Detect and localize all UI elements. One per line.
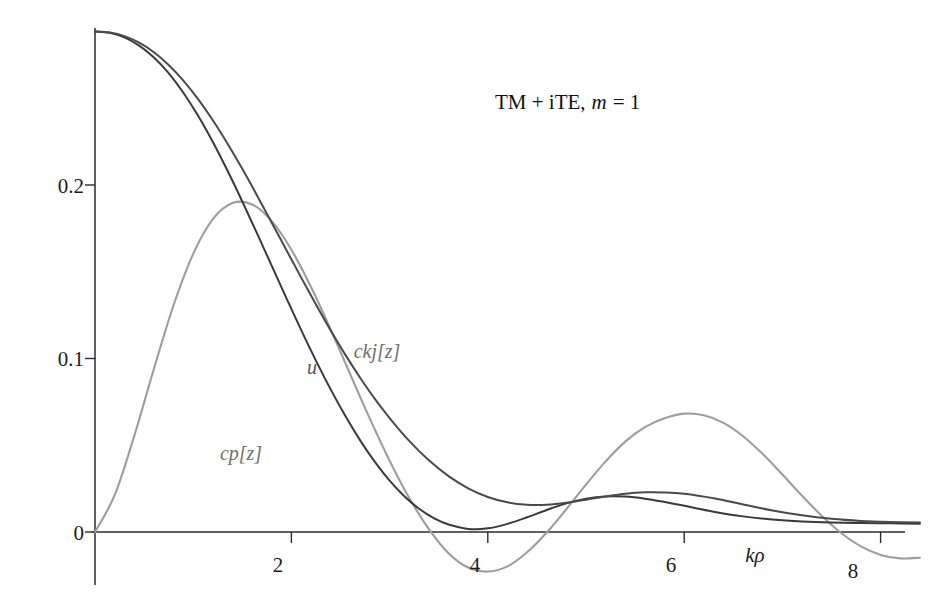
y-axis-ticks: [85, 185, 95, 532]
chart-title: TM + iTE,m= 1: [495, 90, 640, 114]
y-tick-label-0-2: 0.2: [58, 174, 84, 198]
chart-plot-area: 0 0.1 0.2 2 4 6 8 kρ TM + iTE,m= 1 u ckj…: [0, 0, 930, 602]
x-tick-label-8: 8: [848, 559, 859, 583]
curve-ckj: [95, 202, 920, 572]
curve-label-u: u: [307, 356, 317, 378]
curve-label-ckj: ckj[z]: [354, 340, 401, 363]
curve-label-cp: cp[z]: [220, 442, 262, 465]
x-axis-label: kρ: [745, 543, 764, 567]
x-axis-ticks: [291, 532, 880, 543]
chart-title-symbol: m: [592, 90, 607, 114]
y-tick-label-0-1: 0.1: [58, 347, 84, 371]
chart-title-prefix: TM + iTE,: [495, 90, 586, 114]
x-tick-label-2: 2: [273, 553, 284, 577]
y-tick-label-0: 0: [74, 521, 85, 545]
chart-title-suffix: = 1: [613, 90, 641, 114]
x-tick-label-6: 6: [666, 553, 677, 577]
chart-figure: 0 0.1 0.2 2 4 6 8 kρ TM + iTE,m= 1 u ckj…: [0, 0, 930, 602]
x-tick-label-4: 4: [470, 553, 481, 577]
